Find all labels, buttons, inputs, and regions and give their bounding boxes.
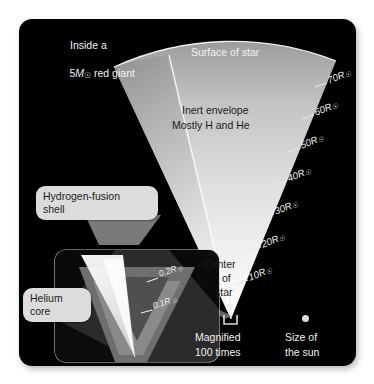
helium-core-line-2: core (30, 305, 84, 318)
title-line-1: Inside a (70, 39, 107, 51)
magnified-line-1: Magnified (195, 331, 241, 343)
envelope-label-line-1: Inert envelope (182, 104, 249, 116)
figure-root: Inside a 5M☉ red giant Surface of star I… (0, 0, 374, 384)
center-of-star-line-1: Center (204, 258, 236, 270)
center-of-star-line-3: star (215, 286, 233, 298)
hydrogen-shell-line-2: shell (43, 203, 151, 216)
title-mass-symbol: M (75, 67, 84, 79)
magnified-line-2: 100 times (195, 346, 241, 358)
title-line-2: 5M☉ red giant (52, 55, 135, 94)
helium-core-line-1: Helium (30, 292, 84, 305)
title-object: red giant (91, 67, 135, 79)
surface-of-star-label: Surface of star (191, 46, 259, 58)
sun-size-dot (302, 315, 309, 322)
sun-size-line-2: the sun (285, 346, 319, 358)
envelope-label-line-2: Mostly H and He (172, 119, 250, 131)
center-of-star-line-2: of (222, 272, 231, 284)
hydrogen-fusion-shell-callout: Hydrogen-fusion shell (36, 186, 158, 220)
helium-core-callout: Helium core (23, 288, 91, 322)
hydrogen-shell-line-1: Hydrogen-fusion (43, 190, 151, 203)
diagram-panel: Inside a 5M☉ red giant Surface of star I… (19, 19, 356, 366)
sun-size-line-1: Size of (285, 331, 317, 343)
